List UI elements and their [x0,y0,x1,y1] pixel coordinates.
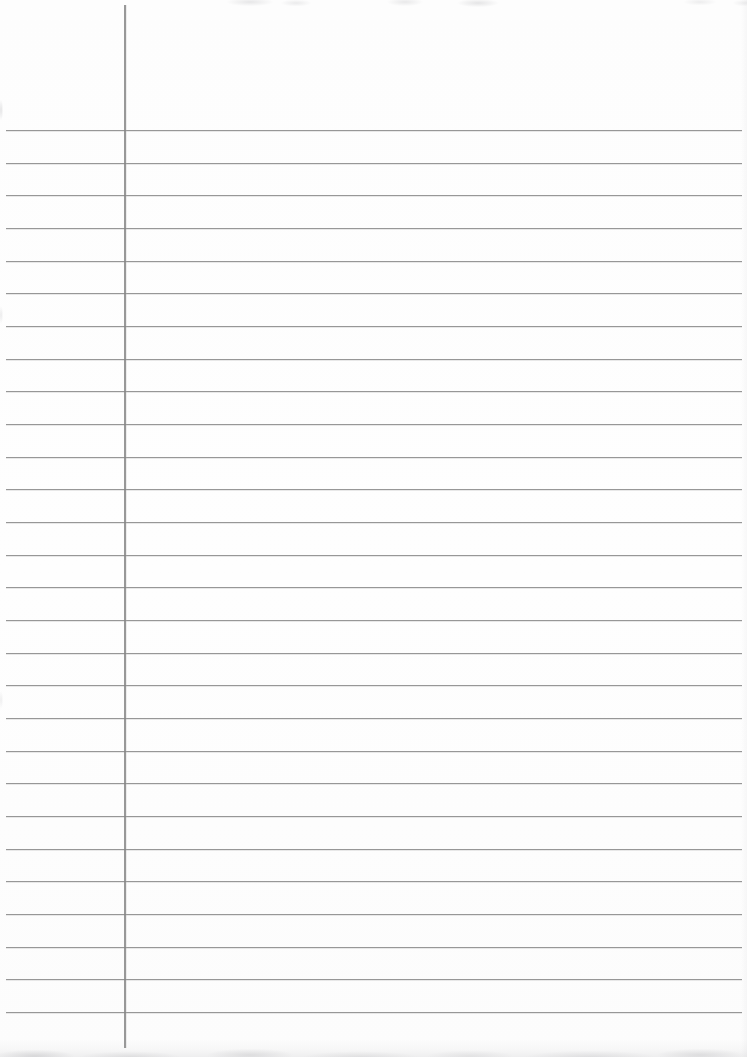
margin-line [124,5,126,1048]
ruled-line [6,587,742,588]
ruled-line [6,391,742,392]
right-edge-shading [741,0,747,1057]
ruled-line [6,685,742,686]
ruled-line [6,979,742,980]
ruled-line [6,914,742,915]
ruled-line [6,783,742,784]
ruled-line [6,816,742,817]
ruled-line [6,293,742,294]
ruled-line [6,489,742,490]
ruled-line [6,326,742,327]
left-edge-shading [0,0,4,1057]
ruled-line [6,1012,742,1013]
ruled-line [6,653,742,654]
ruled-line [6,718,742,719]
notebook-page [0,0,747,1057]
ruled-line [6,261,742,262]
ruled-line [6,620,742,621]
ruled-line [6,751,742,752]
ruled-line [6,881,742,882]
ruled-line [6,228,742,229]
ruled-line [6,195,742,196]
ruled-line [6,522,742,523]
ruled-line [6,849,742,850]
top-edge-smudges [0,0,747,12]
ruled-line [6,947,742,948]
ruled-line [6,163,742,164]
ruled-line [6,130,742,131]
ruled-line [6,424,742,425]
ruled-line [6,555,742,556]
bottom-edge-shadow [0,1040,747,1057]
ruled-line [6,359,742,360]
ruled-line [6,457,742,458]
